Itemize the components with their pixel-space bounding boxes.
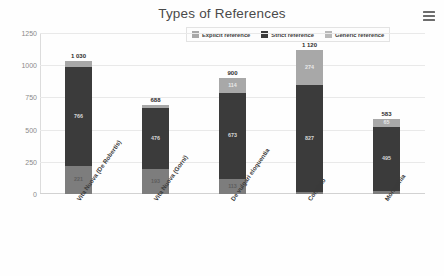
bar-total-label: 900	[227, 70, 237, 76]
bar-segment-explicit[interactable]: 19	[142, 105, 169, 107]
bar-group-2[interactable]: 113673114900	[219, 78, 246, 194]
bar-total-label: 1 030	[71, 53, 86, 59]
y-tick-label-250: 250	[3, 158, 37, 165]
y-tick-label-0: 0	[3, 191, 37, 198]
chart-title: Types of References	[0, 6, 444, 21]
bar-segment-explicit[interactable]: 65	[373, 119, 400, 127]
menu-bar-2	[423, 15, 435, 17]
bar-segment-strict[interactable]: 766	[65, 67, 92, 166]
bar-segment-value: 221	[74, 177, 83, 182]
bar-segment-value: 495	[382, 156, 391, 161]
bar-group-3[interactable]: 198272741 120	[296, 50, 323, 194]
bar-total-label: 688	[150, 97, 160, 103]
bar-total-label: 1 120	[302, 42, 317, 48]
bar-segment-strict[interactable]: 827	[296, 85, 323, 192]
bar-segment-value: 65	[384, 120, 390, 125]
bar-segment-value: 827	[305, 136, 314, 141]
y-tick-label-500: 500	[3, 126, 37, 133]
y-tick-label-1250: 1250	[3, 30, 37, 37]
bar-segment-value: 766	[74, 114, 83, 119]
bar-segment-value: 476	[151, 136, 160, 141]
bar-segment-explicit[interactable]: 274	[296, 50, 323, 85]
bar-segment-strict[interactable]: 476	[142, 108, 169, 169]
hamburger-menu-icon[interactable]	[423, 11, 435, 21]
bar-segment-explicit[interactable]: 43	[65, 61, 92, 67]
bar-segment-explicit[interactable]: 114	[219, 78, 246, 93]
menu-bar-3	[423, 19, 435, 21]
y-tick-label-750: 750	[3, 94, 37, 101]
bar-total-label: 583	[381, 111, 391, 117]
bar-segment-value: 193	[151, 179, 160, 184]
menu-bar-1	[423, 11, 435, 13]
gridline-1000	[40, 65, 425, 66]
chart-card: Types of References Explicit referenceSt…	[0, 0, 444, 276]
gridline-1250	[40, 33, 425, 34]
y-axis-ticks: 125010007505002500	[0, 33, 37, 194]
bar-segment-value: 274	[305, 65, 314, 70]
bar-group-0[interactable]: 221766431 030	[65, 61, 92, 194]
bar-segment-value: 114	[228, 83, 237, 88]
y-tick-label-1000: 1000	[3, 62, 37, 69]
bar-segment-value: 673	[228, 133, 237, 138]
bar-segment-strict[interactable]: 673	[219, 93, 246, 180]
